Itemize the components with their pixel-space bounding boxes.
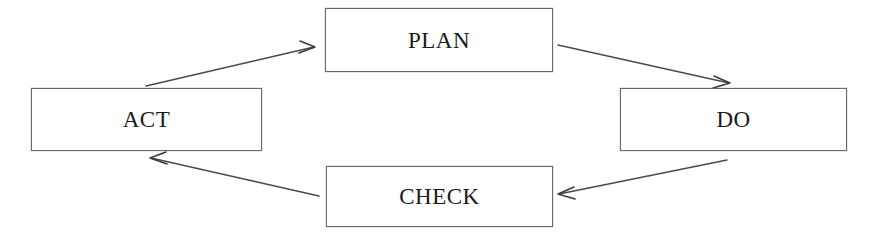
node-do-label: DO: [716, 108, 750, 131]
arrow-do-to-check: [558, 160, 727, 199]
arrow-check-to-act: [150, 152, 319, 196]
arrow-plan-to-do: [558, 45, 730, 88]
node-plan-label: PLAN: [408, 29, 470, 52]
pdca-cycle-diagram: PLAN ACT DO CHECK: [0, 0, 873, 244]
node-check-label: CHECK: [399, 185, 479, 208]
node-check[interactable]: CHECK: [326, 166, 553, 227]
node-act[interactable]: ACT: [31, 88, 262, 151]
node-do[interactable]: DO: [620, 88, 847, 151]
node-act-label: ACT: [123, 108, 171, 131]
node-plan[interactable]: PLAN: [325, 8, 553, 72]
arrow-act-to-plan: [146, 41, 315, 86]
